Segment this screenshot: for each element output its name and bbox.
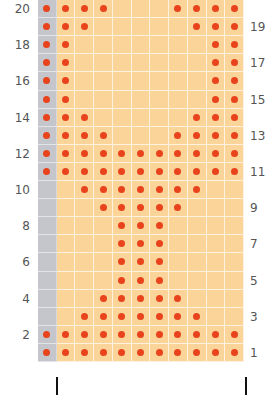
- chart-cell: [207, 308, 226, 326]
- stitch-dot-icon: [137, 313, 144, 320]
- chart-cell: [75, 54, 94, 72]
- chart-cell: [57, 199, 76, 217]
- chart-cell: [113, 344, 132, 362]
- chart-cell: [207, 127, 226, 145]
- chart-cell: [113, 145, 132, 163]
- chart-cell: [207, 109, 226, 127]
- row-label-odd: 19: [250, 20, 270, 34]
- chart-cell: [207, 0, 226, 18]
- chart-cell: [75, 326, 94, 344]
- stitch-dot-icon: [100, 132, 107, 139]
- stitch-dot-icon: [231, 150, 238, 157]
- stitch-dot-icon: [156, 295, 163, 302]
- row-label-even: 4: [0, 292, 30, 306]
- stitch-dot-icon: [118, 150, 125, 157]
- chart-cell: [169, 145, 188, 163]
- chart-cell: [225, 235, 244, 253]
- chart-cell: [75, 217, 94, 235]
- stitch-dot-icon: [62, 77, 69, 84]
- chart-cell: [38, 72, 57, 90]
- stitch-dot-icon: [81, 150, 88, 157]
- chart-cell: [169, 326, 188, 344]
- chart-cell: [132, 199, 151, 217]
- stitch-dot-icon: [100, 168, 107, 175]
- stitch-dot-icon: [193, 150, 200, 157]
- chart-cell: [188, 36, 207, 54]
- chart-cell: [169, 272, 188, 290]
- chart-cell: [94, 127, 113, 145]
- stitch-dot-icon: [193, 349, 200, 356]
- stitch-dot-icon: [118, 258, 125, 265]
- stitch-dot-icon: [118, 204, 125, 211]
- stitch-dot-icon: [43, 23, 50, 30]
- chart-cell: [169, 163, 188, 181]
- stitch-dot-icon: [174, 168, 181, 175]
- stitch-dot-icon: [193, 23, 200, 30]
- chart-cell: [94, 109, 113, 127]
- chart-cell: [150, 18, 169, 36]
- chart-cell: [207, 36, 226, 54]
- chart-cell: [132, 0, 151, 18]
- chart-cell: [113, 326, 132, 344]
- chart-cell: [57, 127, 76, 145]
- chart-cell: [132, 163, 151, 181]
- stitch-dot-icon: [100, 5, 107, 12]
- chart-cell: [150, 54, 169, 72]
- stitch-dot-icon: [62, 41, 69, 48]
- row-label-odd: 7: [250, 237, 270, 251]
- chart-cell: [207, 18, 226, 36]
- row-label-even: 10: [0, 183, 30, 197]
- stitch-dot-icon: [62, 114, 69, 121]
- stitch-dot-icon: [43, 5, 50, 12]
- stitch-dot-icon: [156, 258, 163, 265]
- chart-cell: [169, 127, 188, 145]
- chart-cell: [150, 272, 169, 290]
- chart-cell: [57, 181, 76, 199]
- stitch-dot-icon: [212, 77, 219, 84]
- chart-cell: [169, 54, 188, 72]
- chart-cell: [225, 253, 244, 271]
- chart-cell: [113, 308, 132, 326]
- chart-cell: [38, 326, 57, 344]
- chart-cell: [132, 217, 151, 235]
- stitch-dot-icon: [100, 150, 107, 157]
- chart-cell: [188, 290, 207, 308]
- chart-cell: [75, 308, 94, 326]
- chart-cell: [207, 217, 226, 235]
- chart-cell: [57, 235, 76, 253]
- chart-cell: [150, 344, 169, 362]
- chart-cell: [207, 163, 226, 181]
- stitch-dot-icon: [81, 349, 88, 356]
- chart-cell: [150, 145, 169, 163]
- chart-cell: [94, 145, 113, 163]
- chart-cell: [225, 326, 244, 344]
- stitch-dot-icon: [212, 41, 219, 48]
- chart-cell: [225, 344, 244, 362]
- row-label-odd: 5: [250, 274, 270, 288]
- stitch-dot-icon: [231, 96, 238, 103]
- stitch-dot-icon: [137, 349, 144, 356]
- chart-cell: [113, 18, 132, 36]
- chart-cell: [188, 326, 207, 344]
- chart-cell: [94, 253, 113, 271]
- chart-cell: [188, 235, 207, 253]
- stitch-dot-icon: [212, 96, 219, 103]
- stitch-dot-icon: [174, 204, 181, 211]
- stitch-dot-icon: [81, 313, 88, 320]
- stitch-dot-icon: [174, 349, 181, 356]
- stitch-dot-icon: [43, 77, 50, 84]
- chart-cell: [169, 199, 188, 217]
- stitch-dot-icon: [193, 168, 200, 175]
- stitch-dot-icon: [231, 132, 238, 139]
- chart-cell: [188, 308, 207, 326]
- stitch-dot-icon: [100, 186, 107, 193]
- stitch-dot-icon: [212, 132, 219, 139]
- chart-cell: [225, 18, 244, 36]
- chart-cell: [94, 18, 113, 36]
- chart-cell: [38, 253, 57, 271]
- repeat-marker-line: [56, 377, 58, 395]
- chart-cell: [188, 72, 207, 90]
- stitch-dot-icon: [118, 313, 125, 320]
- stitch-dot-icon: [212, 114, 219, 121]
- chart-cell: [188, 18, 207, 36]
